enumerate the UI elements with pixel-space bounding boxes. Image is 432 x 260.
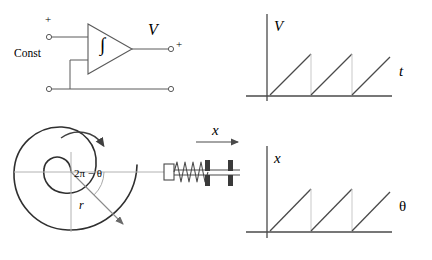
opamp-triangle: [88, 24, 132, 74]
spring-coil: [174, 162, 208, 182]
input-terminal-node: [46, 34, 51, 39]
chart2-x-axis-label: θ: [399, 198, 406, 215]
sawtooth2-ramp-3: [352, 192, 390, 231]
chart2-y-axis-label: x: [274, 150, 281, 167]
figure-canvas: + Const ∫ V + V t 2π − θ r x x θ: [0, 0, 432, 260]
follower-block: [164, 164, 174, 180]
angle-label: 2π − θ: [74, 167, 102, 179]
input-plus-label: +: [45, 13, 51, 25]
output-plus-label: +: [176, 38, 182, 50]
displacement-label: x: [212, 122, 219, 139]
bearing-block-2-lower: [228, 175, 233, 186]
sawtooth-ramp-2: [311, 54, 352, 95]
sawtooth2-ramp-2: [311, 189, 352, 231]
integral-symbol: ∫: [100, 34, 105, 56]
sawtooth-ramp-1: [270, 54, 311, 95]
const-source-label: Const: [14, 47, 41, 59]
bearing-block-1-lower: [205, 175, 210, 186]
chart-displacement-vs-angle: [246, 146, 392, 238]
radius-label: r: [79, 198, 84, 213]
ground-terminal-left-node: [46, 86, 51, 91]
output-terminal-node: [168, 46, 173, 51]
spiral-cam-mechanism: [14, 127, 240, 232]
bearing-block-1-upper: [205, 160, 210, 171]
chart1-x-axis-label: t: [399, 63, 403, 80]
chart-voltage-vs-time: [246, 14, 392, 101]
sawtooth-ramp-3: [352, 57, 390, 95]
output-voltage-label: V: [148, 21, 158, 39]
chart1-y-axis-label: V: [274, 18, 283, 35]
sawtooth2-ramp-1: [270, 189, 311, 231]
bearing-block-2-upper: [228, 160, 233, 171]
ground-terminal-right-node: [168, 86, 173, 91]
